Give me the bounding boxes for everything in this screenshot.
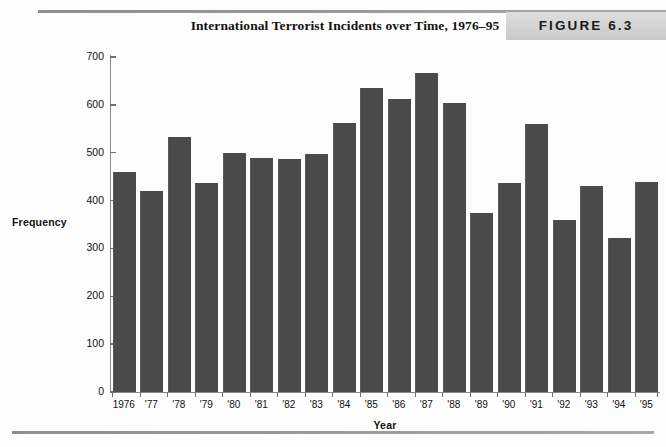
- x-axis-title: Year: [110, 419, 660, 431]
- x-axis-tick-label: '91: [523, 399, 551, 410]
- bar: [360, 88, 383, 392]
- y-axis-title: Frequency: [12, 216, 67, 228]
- x-axis-tick: [580, 392, 581, 397]
- y-axis-tick-label: 0: [70, 385, 104, 397]
- x-axis-tick-label: '78: [165, 399, 193, 410]
- bar: [470, 213, 493, 392]
- x-axis-tick: [470, 392, 471, 397]
- bar: [333, 123, 356, 392]
- y-axis-tick-label: 100: [70, 337, 104, 349]
- x-axis-tick-label: '81: [248, 399, 276, 410]
- x-axis-tick-label: '77: [138, 399, 166, 410]
- bar: [498, 183, 521, 392]
- x-axis-tick-label: '82: [275, 399, 303, 410]
- y-axis-tick-label: 300: [70, 241, 104, 253]
- bar: [635, 182, 658, 392]
- x-axis-tick: [360, 392, 361, 397]
- bar: [250, 158, 273, 392]
- x-axis-tick: [387, 392, 388, 397]
- x-axis-tick-label: '89: [468, 399, 496, 410]
- bar-chart: Frequency Year 0100200300400500600700 19…: [0, 0, 666, 447]
- x-axis-tick-label: '92: [550, 399, 578, 410]
- bar: [553, 220, 576, 392]
- x-axis-tick-label: '86: [385, 399, 413, 410]
- x-axis-tick-label: '95: [633, 399, 661, 410]
- bar: [388, 99, 411, 392]
- x-axis-tick: [195, 392, 196, 397]
- y-axis-tick-label: 500: [70, 146, 104, 158]
- bar: [278, 159, 301, 392]
- y-axis-tick-label: 600: [70, 98, 104, 110]
- bar: [580, 186, 603, 392]
- x-axis-tick-label: '80: [220, 399, 248, 410]
- x-axis-tick-label: '84: [330, 399, 358, 410]
- x-axis-line: [110, 392, 660, 393]
- bar: [223, 153, 246, 392]
- x-axis-tick: [277, 392, 278, 397]
- x-axis-tick-label: '87: [413, 399, 441, 410]
- bar: [305, 154, 328, 392]
- x-axis-tick-label: '85: [358, 399, 386, 410]
- x-axis-tick: [415, 392, 416, 397]
- x-axis-tick: [167, 392, 168, 397]
- x-axis-tick: [635, 392, 636, 397]
- y-axis-tick-label: 400: [70, 194, 104, 206]
- x-axis-tick-label: '88: [440, 399, 468, 410]
- x-axis-tick-label: '83: [303, 399, 331, 410]
- x-axis-tick-label: '90: [495, 399, 523, 410]
- x-axis-tick: [112, 392, 113, 397]
- y-axis-tick: [110, 104, 116, 105]
- x-axis-tick-label: '94: [605, 399, 633, 410]
- y-axis-line: [110, 55, 111, 393]
- bar: [168, 137, 191, 392]
- x-axis-tick: [222, 392, 223, 397]
- x-axis-tick: [657, 392, 658, 397]
- x-axis-tick: [497, 392, 498, 397]
- bar: [608, 238, 631, 392]
- bar: [525, 124, 548, 392]
- bar: [195, 183, 218, 392]
- x-axis-tick-label: 1976: [110, 399, 138, 410]
- bar: [140, 191, 163, 392]
- y-axis-tick-label: 700: [70, 50, 104, 62]
- x-axis-tick: [305, 392, 306, 397]
- x-axis-tick-label: '93: [578, 399, 606, 410]
- x-axis-tick: [250, 392, 251, 397]
- x-axis-tick: [525, 392, 526, 397]
- bar: [443, 103, 466, 392]
- y-axis-tick: [110, 56, 116, 57]
- y-axis-tick-label: 200: [70, 289, 104, 301]
- x-axis-tick: [332, 392, 333, 397]
- bottom-rule: [12, 431, 654, 434]
- x-axis-tick: [607, 392, 608, 397]
- bar: [415, 73, 438, 392]
- x-axis-tick: [140, 392, 141, 397]
- x-axis-tick-label: '79: [193, 399, 221, 410]
- y-axis-tick: [110, 152, 116, 153]
- figure-page: International Terrorist Incidents over T…: [0, 0, 666, 447]
- x-axis-tick: [442, 392, 443, 397]
- bar: [113, 172, 136, 392]
- x-axis-tick: [552, 392, 553, 397]
